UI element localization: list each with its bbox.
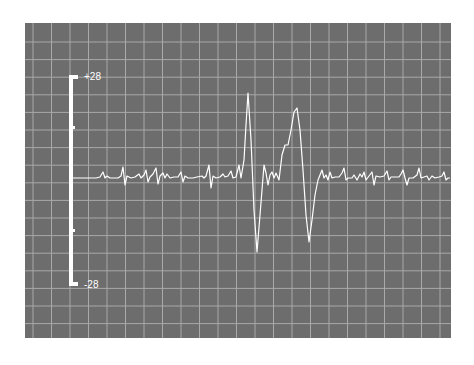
scale-bar-top-tick	[69, 75, 78, 79]
waveform-chart	[0, 0, 474, 365]
scale-bar-tick	[69, 229, 75, 232]
scale-bar	[69, 75, 78, 286]
scale-top-label: +28	[84, 72, 101, 82]
signal-trace	[72, 93, 450, 252]
scale-bar-vertical	[69, 75, 73, 285]
scale-bar-tick	[69, 126, 75, 129]
scale-bar-bottom-tick	[69, 282, 78, 286]
scale-bottom-label: -28	[84, 280, 98, 290]
